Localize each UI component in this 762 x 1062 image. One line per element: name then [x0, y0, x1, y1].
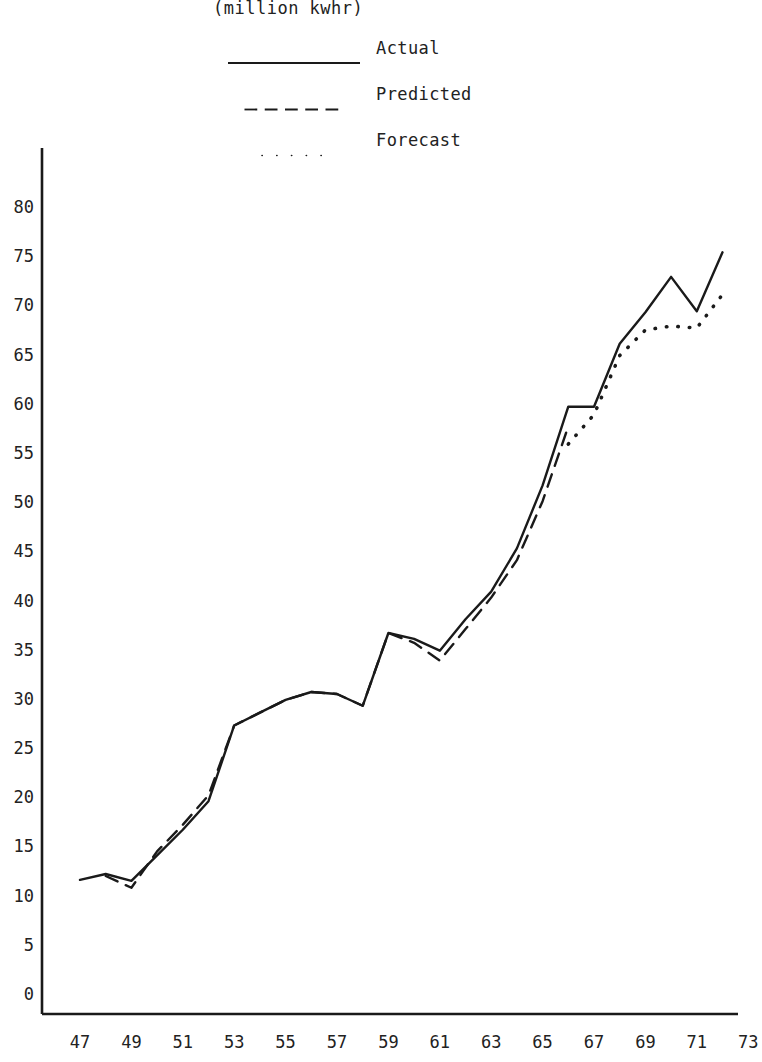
x-tick-label-49: 49: [114, 1032, 148, 1052]
series-line-predicted: [106, 426, 569, 887]
y-tick-label-70: 70: [0, 295, 34, 315]
y-tick-label-60: 60: [0, 394, 34, 414]
x-tick-label-61: 61: [423, 1032, 457, 1052]
y-tick-label-15: 15: [0, 836, 34, 856]
y-tick-label-50: 50: [0, 492, 34, 512]
x-tick-label-53: 53: [217, 1032, 251, 1052]
x-tick-label-59: 59: [371, 1032, 405, 1052]
x-tick-label-57: 57: [320, 1032, 354, 1052]
x-tick-label-63: 63: [474, 1032, 508, 1052]
y-tick-label-0: 0: [0, 984, 34, 1004]
y-tick-label-45: 45: [0, 541, 34, 561]
x-tick-label-73: 73: [731, 1032, 762, 1052]
y-tick-label-65: 65: [0, 345, 34, 365]
y-tick-label-20: 20: [0, 787, 34, 807]
y-tick-label-5: 5: [0, 935, 34, 955]
y-tick-label-10: 10: [0, 886, 34, 906]
y-tick-label-55: 55: [0, 443, 34, 463]
y-tick-label-40: 40: [0, 591, 34, 611]
x-tick-label-47: 47: [63, 1032, 97, 1052]
series-line-forecast: [568, 295, 722, 445]
y-tick-label-35: 35: [0, 640, 34, 660]
chart-axes: [42, 148, 738, 1014]
y-tick-label-80: 80: [0, 197, 34, 217]
y-tick-label-25: 25: [0, 738, 34, 758]
x-tick-label-55: 55: [269, 1032, 303, 1052]
chart-series-group: [80, 252, 723, 888]
x-tick-label-71: 71: [680, 1032, 714, 1052]
x-tick-label-67: 67: [577, 1032, 611, 1052]
x-tick-label-69: 69: [628, 1032, 662, 1052]
y-tick-label-30: 30: [0, 689, 34, 709]
y-tick-label-75: 75: [0, 246, 34, 266]
x-tick-label-65: 65: [526, 1032, 560, 1052]
series-line-actual: [80, 252, 723, 881]
x-tick-label-51: 51: [166, 1032, 200, 1052]
